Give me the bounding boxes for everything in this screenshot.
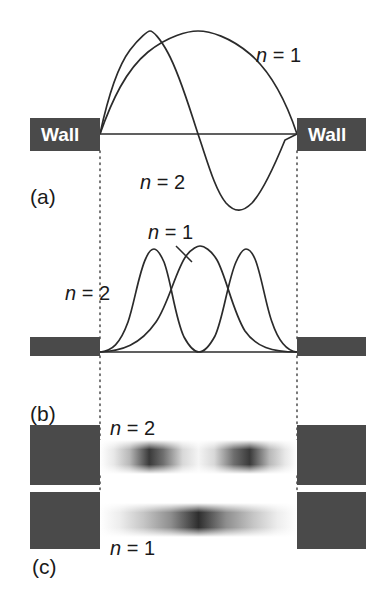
wall-label-right: Wall: [308, 125, 346, 144]
curve-psi2-n1-panel-b: [100, 246, 297, 352]
wall-block-right-panel-c-n1: [297, 492, 366, 549]
density-bar-n2-vfade: [100, 440, 297, 474]
n-symbol-italic: n: [110, 417, 121, 439]
panel-label-c: (c): [32, 556, 57, 577]
wall-block-left-panel-c-n2: [30, 425, 100, 485]
wall-block-left-panel-b: [30, 337, 100, 356]
physics-figure: Wall Wall n = 1 n = 2 n = 1 n = 2 n = 2 …: [0, 0, 387, 606]
label-n1-panel-b: n = 1: [148, 222, 193, 242]
leader-line-n1-panel-b: [176, 246, 192, 262]
wall-label-left: Wall: [41, 125, 79, 144]
curve-psi2-n2-panel-b: [100, 249, 297, 352]
wall-block-left-panel-c-n1: [30, 492, 100, 549]
density-bar-n1-vfade: [100, 503, 297, 537]
n-symbol-italic: n: [140, 171, 151, 193]
n-symbol-italic: n: [256, 44, 267, 66]
density-bar-n1: [100, 503, 297, 537]
n-symbol-italic: n: [110, 537, 121, 559]
label-n1-panel-c: n = 1: [110, 538, 155, 558]
density-bar-n2: [100, 440, 297, 474]
wall-block-right-panel-c-n2: [297, 425, 366, 485]
n-symbol-italic: n: [148, 221, 159, 243]
label-n2-panel-b: n = 2: [65, 283, 110, 303]
panel-label-b: (b): [30, 403, 56, 424]
panel-label-a: (a): [30, 186, 56, 207]
label-n2-panel-a: n = 2: [140, 172, 185, 192]
label-n2-panel-c: n = 2: [110, 418, 155, 438]
label-n1-panel-a: n = 1: [256, 45, 301, 65]
n-symbol-italic: n: [65, 282, 76, 304]
wall-block-right-panel-b: [297, 337, 366, 356]
